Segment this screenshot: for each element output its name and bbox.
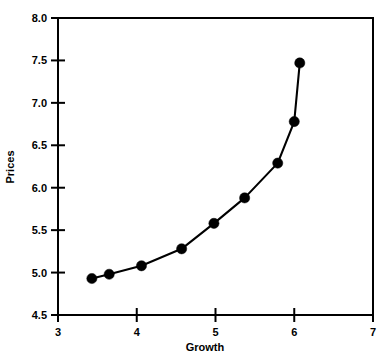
- x-tick-label: 3: [55, 326, 61, 338]
- data-point: [289, 116, 299, 126]
- data-point: [209, 218, 219, 228]
- y-axis-tick-labels: 4.55.05.56.06.57.07.58.0: [32, 12, 47, 321]
- x-tick-label: 5: [212, 326, 218, 338]
- data-point: [240, 193, 250, 203]
- y-tick-label: 8.0: [32, 12, 47, 24]
- y-tick-label: 7.5: [32, 54, 47, 66]
- data-point: [104, 269, 114, 279]
- data-series-line: [92, 63, 300, 279]
- x-axis-title: Growth: [186, 341, 225, 353]
- y-tick-label: 5.0: [32, 267, 47, 279]
- y-tick-label: 5.5: [32, 224, 47, 236]
- data-point: [177, 244, 187, 254]
- x-tick-label: 6: [291, 326, 297, 338]
- line-chart: 4.55.05.56.06.57.07.58.0 34567 Growth Pr…: [0, 0, 387, 360]
- data-series-markers: [87, 58, 305, 284]
- plot-area-border: [58, 18, 373, 315]
- data-point: [136, 261, 146, 271]
- x-tick-label: 4: [134, 326, 141, 338]
- data-point: [295, 58, 305, 68]
- data-point: [87, 273, 97, 283]
- y-tick-label: 6.5: [32, 139, 47, 151]
- y-tick-label: 6.0: [32, 182, 47, 194]
- x-tick-label: 7: [370, 326, 376, 338]
- chart-figure: 4.55.05.56.06.57.07.58.0 34567 Growth Pr…: [0, 0, 387, 360]
- y-tick-label: 7.0: [32, 97, 47, 109]
- x-axis-tick-labels: 34567: [55, 326, 376, 338]
- data-point: [273, 158, 283, 168]
- y-tick-label: 4.5: [32, 309, 47, 321]
- y-axis-title: Prices: [4, 150, 16, 183]
